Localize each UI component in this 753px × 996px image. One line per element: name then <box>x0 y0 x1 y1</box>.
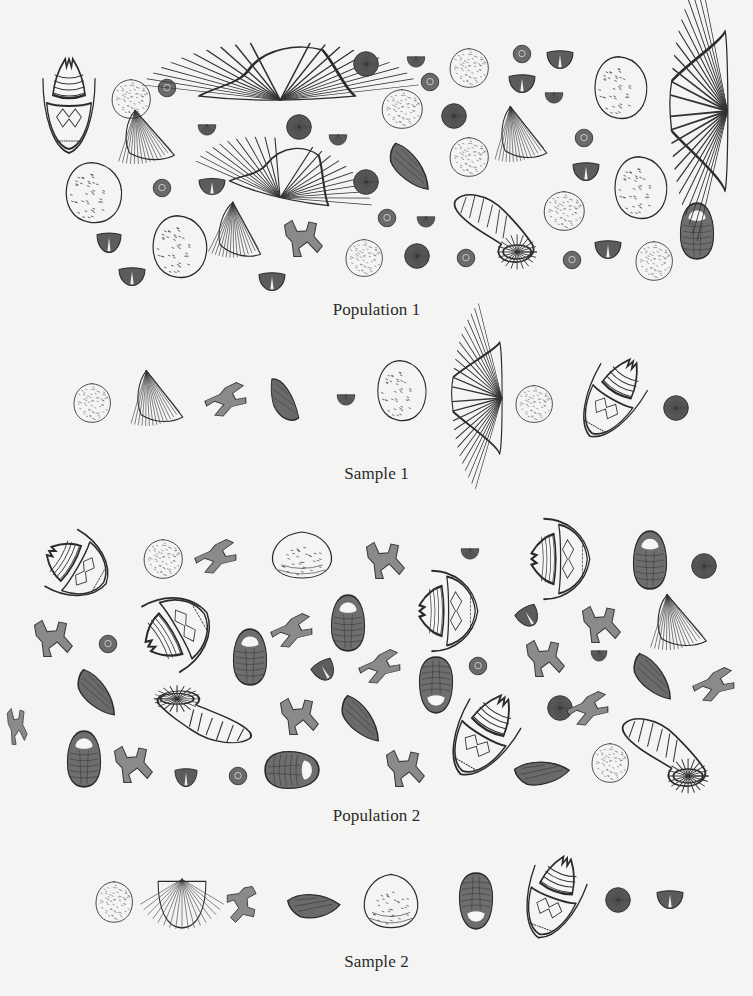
clam-shell-icon <box>592 54 650 122</box>
crinoid-calyx-icon <box>27 516 127 619</box>
crinoid-stem-button-icon <box>377 208 397 228</box>
population-2-label: Population 2 <box>0 806 753 826</box>
bryozoan-twig-icon <box>6 706 28 746</box>
small-brachiopod-icon <box>258 270 286 292</box>
elongate-brachiopod-icon <box>330 691 393 747</box>
crinoid-calyx-icon <box>507 843 600 950</box>
fan-shell-icon <box>500 102 552 160</box>
small-cup-coral-icon <box>460 544 480 560</box>
sea-urchin-icon <box>690 552 718 580</box>
crinoid-calyx-icon <box>561 342 662 454</box>
coral-disc-icon <box>72 382 112 424</box>
bryozoan-twig-icon <box>580 604 622 644</box>
clam-shell-icon <box>375 358 429 424</box>
small-cup-coral-icon <box>406 52 426 68</box>
crinoid-calyx-icon <box>38 55 100 155</box>
sample-1-label: Sample 1 <box>0 464 753 484</box>
sample-2-label: Sample 2 <box>0 952 753 972</box>
small-cup-coral-icon <box>336 390 356 406</box>
elongate-brachiopod-icon <box>283 875 345 934</box>
sea-urchin-icon <box>440 102 468 130</box>
bryozoan-twig-icon <box>364 540 406 580</box>
spiriferid-brachiopod-icon <box>196 38 358 104</box>
clam-shell-icon <box>150 213 210 281</box>
small-brachiopod-icon <box>174 766 198 788</box>
small-brachiopod-icon <box>96 230 122 254</box>
coral-disc-icon <box>542 190 586 232</box>
population-1-label: Population 1 <box>0 300 753 320</box>
horn-coral-icon <box>620 712 712 790</box>
coral-disc-icon <box>514 384 554 424</box>
trilobite-icon <box>632 530 668 590</box>
small-brachiopod-icon <box>508 72 536 94</box>
sea-urchin-icon <box>662 394 690 422</box>
coral-disc-icon <box>344 238 384 278</box>
small-brachiopod-icon <box>198 176 226 196</box>
bryozoan-twig-icon <box>282 218 324 258</box>
crinoid-stem-button-icon <box>562 250 582 270</box>
crinoid-calyx-icon <box>529 511 591 607</box>
crinoid-stem-button-icon <box>98 634 118 654</box>
fan-shell-icon <box>124 106 180 162</box>
crinoid-calyx-icon <box>417 563 479 659</box>
bryozoan-twig-icon <box>688 663 741 707</box>
trilobite-icon <box>458 872 494 930</box>
crinoid-calyx-icon <box>123 573 230 687</box>
coral-disc-icon <box>142 538 184 580</box>
small-cup-coral-icon <box>590 646 608 662</box>
coral-disc-icon <box>590 742 630 784</box>
sea-urchin-icon <box>352 168 380 196</box>
crinoid-stem-button-icon <box>152 178 172 198</box>
small-cup-coral-icon <box>416 212 436 228</box>
bryozoan-twig-icon <box>524 638 566 678</box>
spiriferid-brachiopod-icon <box>668 28 730 194</box>
clam-shell-icon <box>270 530 334 580</box>
small-brachiopod-icon <box>572 160 600 182</box>
fossil-population-figure: Population 1 Sample 1 Population 2 Sampl… <box>0 0 753 996</box>
clam-shell-icon <box>362 872 420 930</box>
small-brachiopod-icon <box>546 48 574 70</box>
elongate-brachiopod-icon <box>270 374 300 426</box>
clam-shell-icon <box>612 154 670 222</box>
bryozoan-twig-icon <box>200 378 253 422</box>
coral-disc-icon <box>634 240 674 282</box>
trilobite-icon <box>66 730 102 788</box>
horn-coral-icon <box>452 188 540 266</box>
clam-shell-icon <box>63 160 125 226</box>
bryozoan-twig-icon <box>278 696 320 736</box>
bryozoan-twig-icon <box>226 884 258 924</box>
bryozoan-twig-icon <box>112 744 154 784</box>
elongate-brachiopod-icon <box>66 665 129 721</box>
small-cup-coral-icon <box>328 130 348 146</box>
elongate-brachiopod-icon <box>378 138 443 195</box>
trilobite-icon <box>679 202 715 260</box>
coral-disc-icon <box>448 136 490 178</box>
trilobite-icon <box>418 656 454 714</box>
crinoid-stem-button-icon <box>228 766 248 786</box>
crinoid-stem-button-icon <box>574 128 594 148</box>
fan-shell-icon <box>156 876 208 930</box>
fan-shell-icon <box>213 196 274 262</box>
bryozoan-twig-icon <box>266 609 319 653</box>
elongate-brachiopod-icon <box>622 649 685 705</box>
small-brachiopod-icon <box>308 654 341 687</box>
bryozoan-twig-icon <box>384 748 426 788</box>
coral-disc-icon <box>94 880 134 924</box>
bryozoan-twig-icon <box>190 535 243 579</box>
bryozoan-twig-icon <box>32 618 74 658</box>
small-brachiopod-icon <box>118 265 146 287</box>
elongate-brachiopod-icon <box>510 742 574 801</box>
small-cup-coral-icon <box>197 120 217 136</box>
sea-urchin-icon <box>403 242 431 270</box>
trilobite-icon <box>264 750 320 790</box>
horn-coral-icon <box>150 688 254 748</box>
sea-urchin-icon <box>352 50 380 78</box>
coral-disc-icon <box>380 88 424 130</box>
small-brachiopod-icon <box>656 888 684 910</box>
coral-disc-icon <box>448 47 490 89</box>
fan-shell-icon <box>136 366 188 424</box>
trilobite-icon <box>330 594 366 652</box>
sea-urchin-icon <box>604 886 632 914</box>
crinoid-stem-button-icon <box>468 656 488 676</box>
trilobite-icon <box>232 628 268 686</box>
